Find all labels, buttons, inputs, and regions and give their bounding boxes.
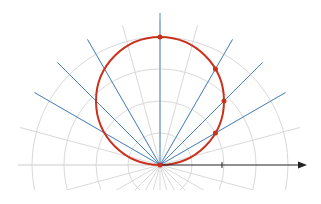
grid-ray [20,127,160,165]
polar-diagram [0,0,321,204]
curve-point [213,67,218,72]
origin-point [158,163,163,168]
highlight-ray [57,62,160,165]
curve-point [213,131,218,136]
polar-plot-canvas [0,0,321,204]
curve-point [158,35,163,40]
curve-point [222,99,227,104]
axis-arrow-icon [298,162,307,169]
grid-ray [160,127,300,165]
highlight-ray [160,62,263,165]
grid-ray [57,165,160,204]
grid-ray [20,165,160,203]
grid-ray [160,165,300,203]
grid-ray [160,165,263,204]
